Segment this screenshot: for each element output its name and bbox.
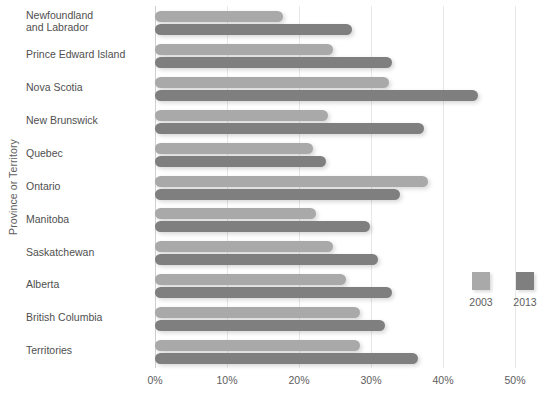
bar-group [155, 335, 515, 368]
bar-2003 [155, 340, 360, 351]
bar-2013 [155, 189, 400, 200]
category-label: Nova Scotia [26, 81, 144, 94]
bar-2013 [155, 287, 392, 298]
bar-group [155, 171, 515, 204]
bar-group [155, 6, 515, 39]
category-axis: Newfoundland and LabradorPrince Edward I… [26, 6, 148, 368]
legend-swatch-2003 [472, 272, 490, 290]
bar-2003 [155, 176, 428, 187]
category-label: Territories [26, 344, 144, 357]
bar-2003 [155, 241, 333, 252]
bar-2013 [155, 221, 370, 232]
x-tick-label: 40% [432, 374, 453, 386]
category-label: New Brunswick [26, 114, 144, 127]
x-tick-label: 20% [288, 374, 309, 386]
plot-area [155, 6, 515, 368]
bar-group [155, 236, 515, 269]
category-label: Prince Edward Island [26, 48, 144, 61]
category-label: Alberta [26, 278, 144, 291]
legend-label-2013: 2013 [506, 296, 544, 308]
bar-group [155, 138, 515, 171]
bar-group [155, 39, 515, 72]
bar-2013 [155, 57, 392, 68]
bar-2013 [155, 353, 418, 364]
category-label: Newfoundland and Labrador [26, 9, 144, 34]
bar-group [155, 105, 515, 138]
x-tick-label: 10% [216, 374, 237, 386]
bar-chart: Province or Territory Newfoundland and L… [0, 0, 560, 416]
category-label: Saskatchewan [26, 246, 144, 259]
bar-group [155, 269, 515, 302]
category-label: Manitoba [26, 213, 144, 226]
category-label: British Columbia [26, 311, 144, 324]
bar-group [155, 203, 515, 236]
bar-2003 [155, 77, 389, 88]
chart-legend: 20032013 [462, 272, 548, 320]
legend-swatch-2013 [516, 272, 534, 290]
y-axis-title-text: Province or Territory [7, 139, 19, 235]
bar-2003 [155, 44, 333, 55]
legend-item-2003[interactable]: 2003 [462, 272, 500, 308]
y-axis-title: Province or Territory [2, 0, 24, 374]
bar-2013 [155, 24, 352, 35]
x-tick-label: 30% [360, 374, 381, 386]
bar-2013 [155, 254, 378, 265]
x-tick-label: 0% [147, 374, 162, 386]
bar-2003 [155, 11, 283, 22]
bar-2003 [155, 307, 360, 318]
x-tick-label: 50% [504, 374, 525, 386]
bar-2003 [155, 208, 316, 219]
bar-2013 [155, 320, 385, 331]
category-label: Ontario [26, 180, 144, 193]
bar-2013 [155, 156, 326, 167]
legend-item-2013[interactable]: 2013 [506, 272, 544, 308]
bar-2013 [155, 90, 478, 101]
bar-2003 [155, 143, 313, 154]
bar-group [155, 72, 515, 105]
x-axis: 0%10%20%30%40%50% [155, 372, 515, 392]
bar-2013 [155, 123, 424, 134]
bar-2003 [155, 274, 346, 285]
bar-2003 [155, 110, 328, 121]
category-label: Quebec [26, 147, 144, 160]
bar-group [155, 302, 515, 335]
legend-label-2003: 2003 [462, 296, 500, 308]
